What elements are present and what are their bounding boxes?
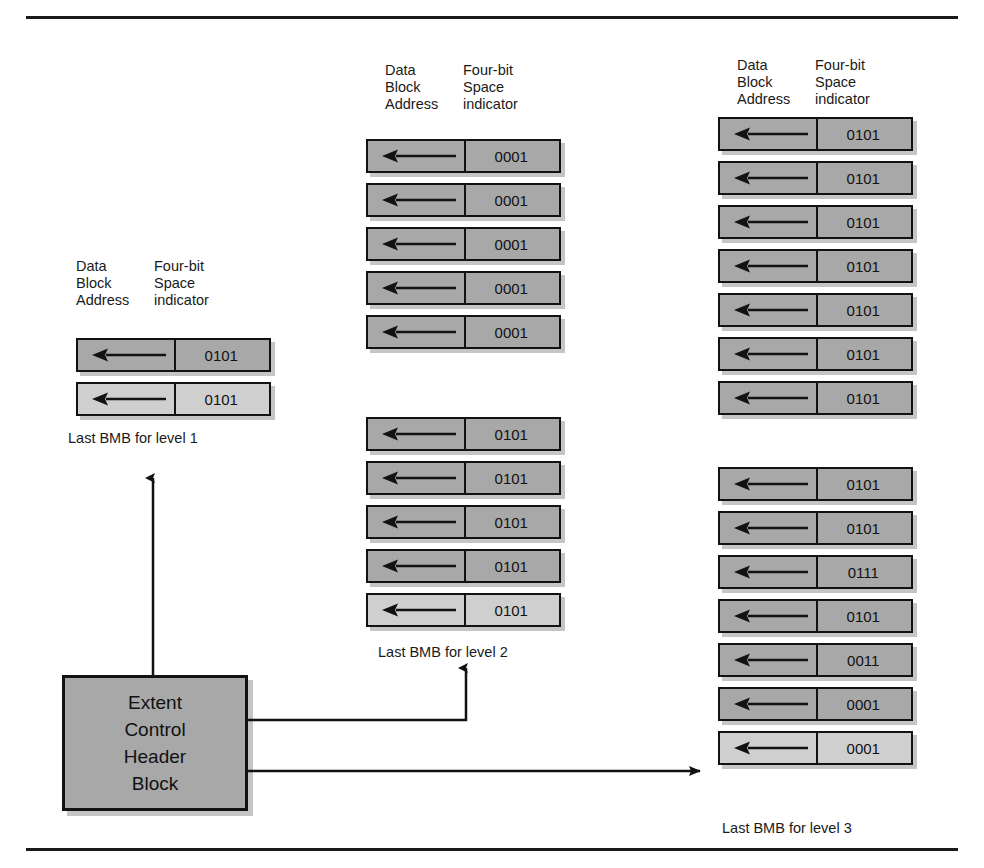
- left-arrow-icon: [92, 347, 166, 363]
- echb-line-3: Header: [124, 743, 186, 770]
- bmb-row[interactable]: 0111: [718, 555, 913, 589]
- left-arrow-icon: [92, 391, 166, 407]
- header-data-block-address: Data Block Address: [737, 57, 790, 108]
- bmb-row[interactable]: 0101: [366, 549, 561, 583]
- left-arrow-icon: [382, 192, 456, 208]
- data-block-address-cell: [720, 207, 816, 237]
- bmb-row[interactable]: 0101: [718, 205, 913, 239]
- bmb-row[interactable]: 0001: [366, 271, 561, 305]
- left-arrow-icon: [734, 696, 808, 712]
- data-block-address-cell: [720, 469, 816, 499]
- space-indicator-value: 0001: [816, 689, 912, 719]
- header-four-bit-space-indicator: Four-bit Space indicator: [815, 57, 870, 108]
- bmb-row[interactable]: 0011: [718, 643, 913, 677]
- bottom-rule: [26, 848, 958, 851]
- space-indicator-value: 0101: [816, 601, 912, 631]
- level-3-bmb-group-upper: 0101010101010101010101010101: [718, 117, 913, 425]
- data-block-address-cell: [720, 251, 816, 281]
- level-3-caption: Last BMB for level 3: [722, 820, 852, 836]
- bmb-row[interactable]: 0001: [366, 139, 561, 173]
- bmb-row[interactable]: 0101: [366, 461, 561, 495]
- bmb-row[interactable]: 0101: [718, 337, 913, 371]
- bmb-row[interactable]: 0001: [366, 227, 561, 261]
- space-indicator-value: 0011: [816, 645, 912, 675]
- header-data-block-address: Data Block Address: [385, 62, 438, 113]
- space-indicator-value: 0101: [816, 295, 912, 325]
- left-arrow-icon: [734, 564, 808, 580]
- level-2-caption: Last BMB for level 2: [378, 644, 508, 660]
- space-indicator-value: 0101: [816, 163, 912, 193]
- bmb-row[interactable]: 0101: [718, 249, 913, 283]
- bmb-row[interactable]: 0001: [366, 183, 561, 217]
- space-indicator-value: 0101: [816, 251, 912, 281]
- left-arrow-icon: [734, 520, 808, 536]
- connector-echb-to-level-2: [248, 668, 466, 720]
- space-indicator-value: 0001: [464, 185, 560, 215]
- left-arrow-icon: [734, 258, 808, 274]
- left-arrow-icon: [382, 324, 456, 340]
- data-block-address-cell: [368, 141, 464, 171]
- data-block-address-cell: [368, 273, 464, 303]
- level-1-caption: Last BMB for level 1: [68, 430, 198, 446]
- data-block-address-cell: [720, 601, 816, 631]
- space-indicator-value: 0101: [816, 119, 912, 149]
- bmb-row[interactable]: 0001: [718, 687, 913, 721]
- data-block-address-cell: [720, 689, 816, 719]
- left-arrow-icon: [734, 126, 808, 142]
- left-arrow-icon: [734, 390, 808, 406]
- bmb-row[interactable]: 0001: [366, 315, 561, 349]
- bmb-row[interactable]: 0101: [718, 117, 913, 151]
- space-indicator-value: 0111: [816, 557, 912, 587]
- data-block-address-cell: [368, 229, 464, 259]
- left-arrow-icon: [382, 148, 456, 164]
- space-indicator-value: 0101: [174, 340, 270, 370]
- bmb-row[interactable]: 0101: [366, 417, 561, 451]
- space-indicator-value: 0101: [464, 595, 560, 625]
- bmb-row[interactable]: 0101: [366, 593, 561, 627]
- left-arrow-icon: [734, 476, 808, 492]
- bmb-row[interactable]: 0101: [76, 382, 271, 416]
- data-block-address-cell: [720, 295, 816, 325]
- level-1-bmb-group: 01010101: [76, 338, 271, 426]
- data-block-address-cell: [720, 733, 816, 763]
- header-data-block-address: Data Block Address: [76, 258, 129, 309]
- left-arrow-icon: [382, 426, 456, 442]
- left-arrow-icon: [734, 740, 808, 756]
- extent-control-header-block[interactable]: Extent Control Header Block: [62, 675, 248, 811]
- data-block-address-cell: [368, 507, 464, 537]
- bmb-row[interactable]: 0101: [718, 293, 913, 327]
- space-indicator-value: 0101: [816, 513, 912, 543]
- data-block-address-cell: [720, 339, 816, 369]
- left-arrow-icon: [382, 602, 456, 618]
- echb-line-4: Block: [132, 770, 178, 797]
- space-indicator-value: 0101: [816, 207, 912, 237]
- bmb-row[interactable]: 0001: [718, 731, 913, 765]
- data-block-address-cell: [368, 317, 464, 347]
- data-block-address-cell: [368, 419, 464, 449]
- bmb-row[interactable]: 0101: [718, 161, 913, 195]
- bmb-row[interactable]: 0101: [718, 381, 913, 415]
- bmb-row[interactable]: 0101: [718, 599, 913, 633]
- left-arrow-icon: [734, 608, 808, 624]
- bmb-row[interactable]: 0101: [718, 467, 913, 501]
- left-arrow-icon: [734, 302, 808, 318]
- echb-line-2: Control: [124, 716, 185, 743]
- data-block-address-cell: [720, 645, 816, 675]
- left-arrow-icon: [382, 514, 456, 530]
- left-arrow-icon: [734, 170, 808, 186]
- space-indicator-value: 0001: [464, 273, 560, 303]
- top-rule: [26, 16, 958, 19]
- data-block-address-cell: [720, 513, 816, 543]
- bmb-row[interactable]: 0101: [718, 511, 913, 545]
- bmb-row[interactable]: 0101: [76, 338, 271, 372]
- bmb-row[interactable]: 0101: [366, 505, 561, 539]
- figure-canvas: Data Block Address Four-bit Space indica…: [0, 0, 984, 868]
- data-block-address-cell: [368, 551, 464, 581]
- echb-line-1: Extent: [128, 689, 182, 716]
- space-indicator-value: 0001: [816, 733, 912, 763]
- space-indicator-value: 0101: [816, 383, 912, 413]
- data-block-address-cell: [368, 463, 464, 493]
- level-2-bmb-group-upper: 00010001000100010001: [366, 139, 561, 359]
- space-indicator-value: 0001: [464, 229, 560, 259]
- level-2-bmb-group-lower: 01010101010101010101: [366, 417, 561, 637]
